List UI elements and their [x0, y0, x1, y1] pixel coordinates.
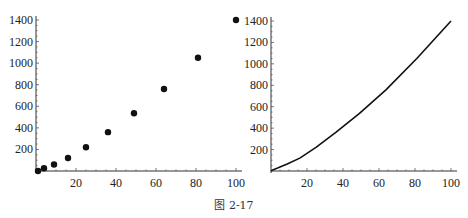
data-point [51, 161, 57, 167]
x-tick-label: 100 [442, 176, 460, 190]
x-tick-label: 80 [409, 176, 421, 190]
y-tick-label: 1000 [9, 56, 33, 70]
y-tick-label: 400 [250, 121, 268, 135]
y-tick-label: 200 [250, 143, 268, 157]
y-tick-label: 400 [15, 121, 33, 135]
scatter-chart: 20406080100200400600800100012001400 [9, 13, 245, 190]
data-point [233, 17, 239, 23]
y-tick-label: 1400 [9, 13, 33, 27]
y-tick-label: 800 [15, 78, 33, 92]
x-tick-label: 60 [150, 176, 162, 190]
x-tick-label: 60 [373, 176, 385, 190]
data-point [41, 165, 47, 171]
figure-canvas: 20406080100200400600800100012001400 2040… [0, 0, 468, 218]
x-tick-label: 20 [301, 176, 313, 190]
y-tick-label: 1400 [244, 14, 268, 28]
y-tick-label: 800 [250, 78, 268, 92]
y-tick-label: 600 [15, 99, 33, 113]
x-tick-label: 20 [70, 176, 82, 190]
y-tick-label: 1200 [9, 35, 33, 49]
x-tick-label: 80 [190, 176, 202, 190]
data-point [83, 144, 89, 150]
data-point [161, 86, 167, 92]
data-line [271, 21, 451, 171]
x-tick-label: 100 [227, 176, 245, 190]
data-point [105, 129, 111, 135]
x-tick-label: 40 [337, 176, 349, 190]
y-tick-label: 1000 [244, 57, 268, 71]
y-tick-label: 200 [15, 142, 33, 156]
data-point [65, 155, 71, 161]
data-point [195, 55, 201, 61]
y-tick-label: 600 [250, 100, 268, 114]
figure-caption: 图 2-17 [0, 196, 468, 212]
line-chart: 20406080100200400600800100012001400 [244, 14, 460, 190]
y-tick-label: 1200 [244, 35, 268, 49]
data-point [35, 168, 41, 174]
x-tick-label: 40 [110, 176, 122, 190]
data-point [131, 110, 137, 116]
